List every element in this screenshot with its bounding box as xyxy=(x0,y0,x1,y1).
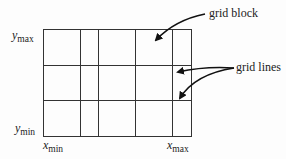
y-min-label: ymin xyxy=(15,121,35,136)
grid-block-arrow-icon xyxy=(156,14,205,40)
x-min-label: xmin xyxy=(43,138,63,153)
x-max-label: xmax xyxy=(167,138,189,153)
grid-lines xyxy=(44,30,192,137)
grid-lines-arrow-lower-icon xyxy=(180,68,234,98)
grid-diagram xyxy=(0,0,286,159)
grid-block-label: grid block xyxy=(209,6,258,21)
grid-lines-label: grid lines xyxy=(236,60,281,75)
y-max-label: ymax xyxy=(12,28,34,43)
